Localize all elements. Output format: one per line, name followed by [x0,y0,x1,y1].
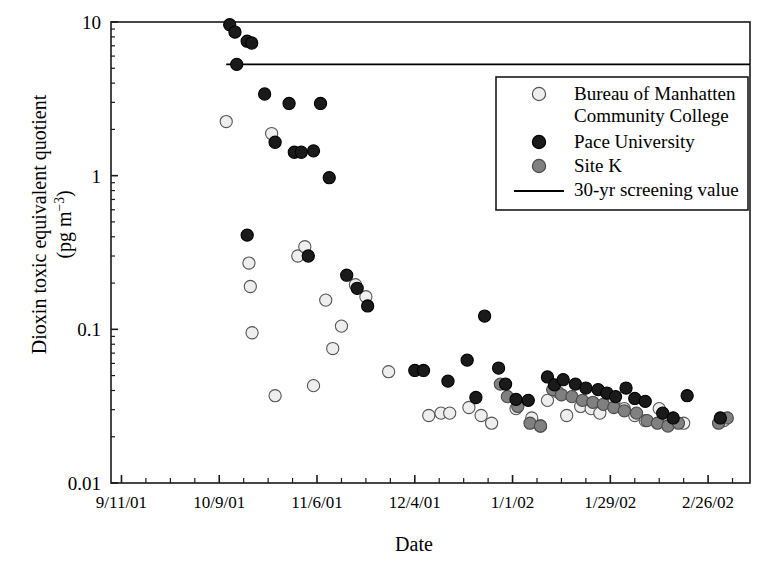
y-tick-label: 0.1 [77,319,101,340]
x-tick-label: 9/11/01 [96,493,147,512]
data-point [479,310,491,322]
data-point [269,136,281,148]
data-point [492,362,504,374]
data-point [220,115,232,127]
data-point [244,280,256,292]
data-point [259,88,271,100]
data-point [327,342,339,354]
x-tick-label: 1/1/02 [491,493,534,512]
data-point [229,26,241,38]
data-point [423,409,435,421]
data-point [307,145,319,157]
figure: Dioxin toxic equivalent quotient (pg m−3… [0,0,766,568]
data-point [283,97,295,109]
data-point [351,282,363,294]
data-point [470,391,482,403]
legend-item-bmcc-line2: Community College [574,105,729,126]
data-point [335,320,347,332]
data-point [307,380,319,392]
data-point [320,294,332,306]
scatter-plot: 0.010.11109/11/0110/9/0111/6/0112/4/011/… [0,0,766,568]
x-tick-label: 10/9/01 [193,493,245,512]
data-point [231,58,243,70]
data-point [486,417,498,429]
data-point [557,374,569,386]
legend-marker-gray-circle [532,159,545,172]
data-point [620,382,632,394]
data-point [475,409,487,421]
data-point [714,412,726,424]
y-tick-label: 1 [92,166,102,187]
data-point [302,250,314,262]
legend-label: 30-yr screening value [574,179,739,200]
legend: Bureau of ManhattenCommunity CollegePace… [496,77,748,210]
x-tick-label: 2/26/02 [682,493,734,512]
legend-label: Pace University [574,131,695,152]
data-point [618,405,630,417]
data-point [580,382,592,394]
legend-marker-dark-circle [532,135,545,148]
x-tick-label: 1/29/02 [584,493,636,512]
data-point [442,375,454,387]
data-point [383,366,395,378]
legend-label: Community College [574,105,729,126]
data-point [561,409,573,421]
y-tick-label: 0.01 [68,473,101,494]
data-point [609,390,621,402]
data-point [243,257,255,269]
legend-marker-light-circle [532,87,545,100]
legend-label: Site K [574,155,622,176]
data-point [241,229,253,241]
data-point [246,37,258,49]
data-point [499,378,511,390]
data-point [246,327,258,339]
data-point [639,395,651,407]
data-point [323,172,335,184]
data-point [681,390,693,402]
data-point [444,407,456,419]
data-point [534,420,546,432]
data-point [461,354,473,366]
x-tick-label: 11/6/01 [291,493,342,512]
data-point [667,412,679,424]
data-point [314,97,326,109]
data-point [269,390,281,402]
data-point [630,407,642,419]
legend-label: Bureau of Manhatten [574,83,736,104]
data-point [510,393,522,405]
y-tick-label: 10 [82,12,101,33]
data-point [295,146,307,158]
data-point [341,269,353,281]
data-point [522,394,534,406]
data-point [417,364,429,376]
data-point [362,300,374,312]
x-tick-label: 12/4/01 [389,493,441,512]
